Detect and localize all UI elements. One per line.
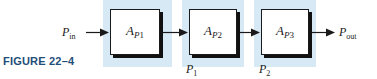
node2-subscript: 2 [266,69,270,78]
input-arrow [86,28,110,37]
amp2-subscript-number: 2 [217,30,222,40]
figure-caption: FIGURE 22–4 [3,55,74,67]
amplifier-stage-3: AP3 [261,9,309,55]
stage2-to-stage3-arrow [240,28,261,37]
output-power-label: Pout [339,26,357,41]
amp3-subscript-number: 3 [289,30,294,40]
amp3-symbol: A [276,23,284,38]
node1-subscript: 1 [193,69,197,78]
output-power-subscript: out [346,32,356,41]
amp2-symbol: A [204,23,212,38]
amplifier-stage-1-label: AP1 [126,24,144,40]
figure-block-diagram: Pin AP1 AP2 AP3 [0,0,377,79]
output-arrow [312,28,336,37]
amp1-subscript-number: 1 [139,30,144,40]
amplifier-stage-2-label: AP2 [204,24,222,40]
node-power-label-2: P2 [259,63,270,78]
node-power-label-1: P1 [186,63,197,78]
input-power-subscript: in [69,32,75,41]
amplifier-stage-2: AP2 [189,9,237,55]
amplifier-stage-1: AP1 [110,9,160,55]
amplifier-stage-3-label: AP3 [276,24,294,40]
amp1-symbol: A [126,23,134,38]
input-power-label: Pin [62,26,76,41]
stage1-to-stage2-arrow [163,28,189,37]
